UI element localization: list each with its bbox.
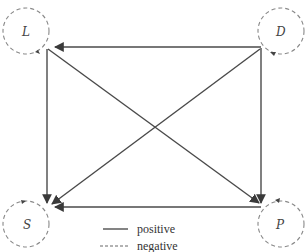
loop-arrow-D-icon [270,52,276,56]
node-label-S: S [23,218,31,232]
legend-positive-label: positive [137,222,175,236]
loop-arrow-P-icon [275,198,280,203]
node-L: L [3,8,49,54]
node-label-L: L [21,25,30,39]
node-P: P [258,198,304,247]
edge-L-to-P [48,49,259,203]
loop-arrow-L-icon [35,50,40,54]
node-label-D: D [275,25,286,39]
causal-diagram: L D S P positive negative [0,0,308,252]
node-S: S [3,200,49,247]
node-label-P: P [275,218,285,232]
legend-negative-label: negative [137,239,178,252]
legend: positive negative [100,222,178,252]
node-D: D [258,8,304,56]
